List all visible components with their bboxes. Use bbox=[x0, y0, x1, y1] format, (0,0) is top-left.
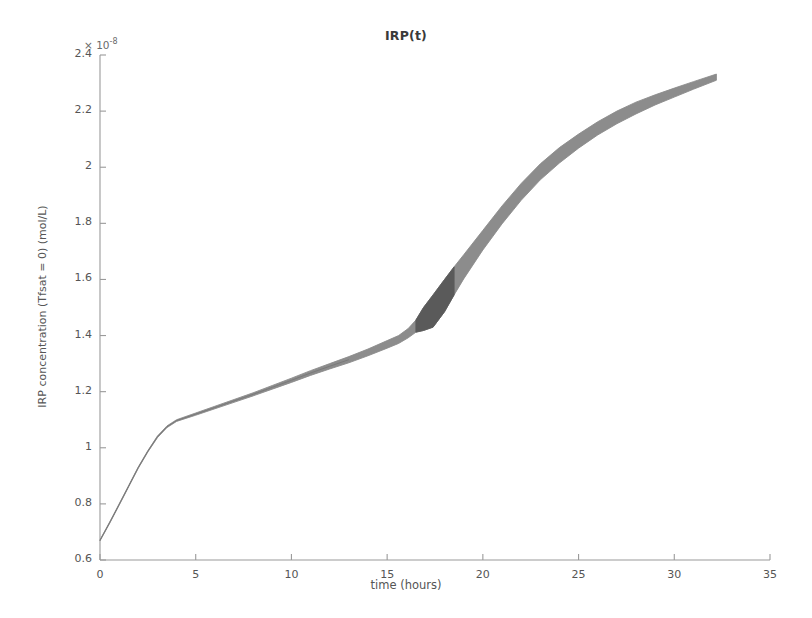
plot-canvas bbox=[0, 0, 812, 618]
uncertainty-band-dark-segment bbox=[416, 267, 454, 332]
uncertainty-band bbox=[100, 74, 716, 541]
y-tick-label: 0.8 bbox=[52, 496, 92, 509]
x-tick-label: 35 bbox=[750, 568, 790, 581]
x-tick-label: 5 bbox=[176, 568, 216, 581]
y-tick-label: 1 bbox=[52, 440, 92, 453]
data-band-group bbox=[100, 74, 716, 541]
x-tick-label: 25 bbox=[559, 568, 599, 581]
y-tick-label: 1.4 bbox=[52, 328, 92, 341]
early-trace-line bbox=[100, 360, 349, 541]
x-tick-label: 15 bbox=[367, 568, 407, 581]
x-tick-label: 0 bbox=[80, 568, 120, 581]
x-tick-label: 20 bbox=[463, 568, 503, 581]
y-tick-label: 1.2 bbox=[52, 384, 92, 397]
y-tick-label: 1.6 bbox=[52, 271, 92, 284]
x-tick-label: 10 bbox=[271, 568, 311, 581]
y-tick-label: 2 bbox=[52, 159, 92, 172]
y-tick-label: 2.2 bbox=[52, 103, 92, 116]
chart-figure: IRP(t) × 10-8 IRP concentration (Tfsat =… bbox=[0, 0, 812, 618]
x-tick-label: 30 bbox=[654, 568, 694, 581]
y-tick-label: 2.4 bbox=[52, 47, 92, 60]
y-tick-label: 0.6 bbox=[52, 552, 92, 565]
y-tick-label: 1.8 bbox=[52, 215, 92, 228]
